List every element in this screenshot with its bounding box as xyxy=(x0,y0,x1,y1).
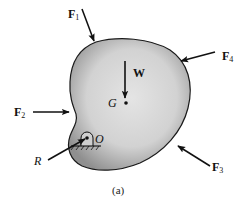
pivot-pin xyxy=(85,136,89,140)
label-f3: F3 xyxy=(212,160,223,175)
figure-caption: (a) xyxy=(112,184,125,197)
force-arrow-f1 xyxy=(82,9,94,41)
rigid-body xyxy=(69,39,191,170)
label-g: G xyxy=(108,96,117,110)
force-arrow-f3 xyxy=(178,146,210,166)
label-f2: F2 xyxy=(14,105,25,120)
free-body-diagram: F1 F4 W F2 G O R F3 (a) xyxy=(0,0,245,209)
force-arrow-f4 xyxy=(181,52,215,61)
center-of-gravity-dot xyxy=(124,101,128,105)
label-f4: F4 xyxy=(222,49,233,64)
label-r: R xyxy=(33,154,42,168)
label-f1: F1 xyxy=(68,7,79,22)
label-w: W xyxy=(133,66,145,80)
label-o: O xyxy=(95,132,104,146)
